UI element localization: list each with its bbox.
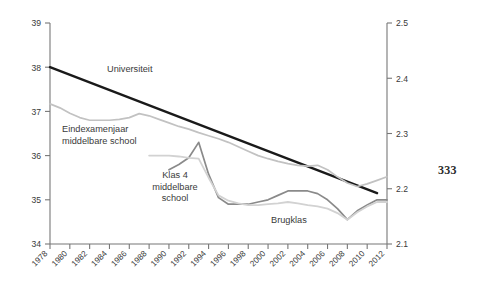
svg-text:2012: 2012	[367, 249, 387, 269]
chart-figure: 343536373839 2.12.22.32.42.5 19781980198…	[0, 0, 483, 296]
svg-text:37: 37	[31, 107, 41, 117]
svg-text:2002: 2002	[268, 249, 288, 269]
svg-text:1986: 1986	[109, 249, 129, 269]
svg-text:2006: 2006	[308, 249, 328, 269]
x-axis: 1978198019821984198619881990199219941996…	[30, 244, 387, 268]
svg-text:2010: 2010	[347, 249, 367, 269]
svg-text:1982: 1982	[70, 249, 90, 269]
svg-text:36: 36	[31, 151, 41, 161]
svg-text:1978: 1978	[30, 249, 50, 269]
series-label-brugklas: Brugklas	[271, 215, 307, 227]
svg-text:1980: 1980	[50, 249, 70, 269]
svg-text:2008: 2008	[328, 249, 348, 269]
svg-text:2000: 2000	[248, 249, 268, 269]
svg-text:1990: 1990	[149, 249, 169, 269]
page-number: 333	[438, 163, 457, 178]
svg-text:34: 34	[31, 239, 41, 249]
svg-text:35: 35	[31, 195, 41, 205]
series-label-universiteit: Universiteit	[107, 64, 152, 76]
svg-text:2.2: 2.2	[396, 184, 408, 194]
svg-text:2.1: 2.1	[396, 239, 408, 249]
svg-text:2.5: 2.5	[396, 18, 408, 28]
svg-text:1996: 1996	[209, 249, 229, 269]
svg-text:1992: 1992	[169, 249, 189, 269]
right-y-axis: 2.12.22.32.42.5	[387, 18, 408, 249]
svg-text:1984: 1984	[90, 249, 110, 269]
svg-text:2004: 2004	[288, 249, 308, 269]
svg-text:1988: 1988	[129, 249, 149, 269]
svg-text:2.4: 2.4	[396, 74, 408, 84]
svg-text:38: 38	[31, 63, 41, 73]
line-chart: 343536373839 2.12.22.32.42.5 19781980198…	[0, 0, 483, 296]
svg-text:1994: 1994	[189, 249, 209, 269]
series-label-klas4: Klas 4 middelbare school	[143, 170, 207, 205]
series-label-eindexamenjaar: Eindexamenjaar middelbare school	[62, 124, 137, 147]
left-y-axis: 343536373839	[31, 18, 50, 249]
svg-text:2.3: 2.3	[396, 129, 408, 139]
svg-text:39: 39	[31, 18, 41, 28]
svg-text:1998: 1998	[228, 249, 248, 269]
